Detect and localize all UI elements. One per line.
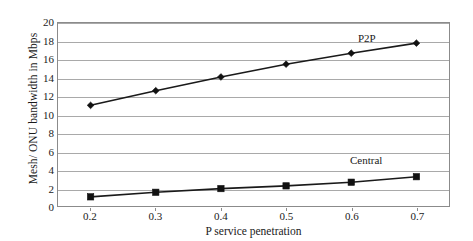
x-axis-tick-labels: 0.20.30.40.50.60.7 xyxy=(57,208,450,224)
x-tick-label: 0.5 xyxy=(266,208,306,224)
data-point xyxy=(87,194,93,200)
series-container xyxy=(58,23,449,206)
data-point xyxy=(218,185,224,191)
data-point xyxy=(87,102,94,109)
data-point xyxy=(283,61,290,68)
series-line-central xyxy=(91,177,417,197)
series-label-central: Central xyxy=(350,154,382,167)
data-point xyxy=(413,40,420,47)
series-label-p2p: P2P xyxy=(358,32,376,45)
x-tick-label: 0.6 xyxy=(332,208,372,224)
x-tick-label: 0.7 xyxy=(397,208,437,224)
y-tick-label: 16 xyxy=(28,52,54,66)
data-point xyxy=(153,189,159,195)
chart-figure: Mesh/ ONU bandwidth in Mbps 024681012141… xyxy=(0,0,473,241)
y-tick-label: 10 xyxy=(28,108,54,122)
x-tick-label: 0.4 xyxy=(201,208,241,224)
data-point xyxy=(152,87,159,94)
y-tick-label: 18 xyxy=(28,34,54,48)
x-tick-label: 0.3 xyxy=(135,208,175,224)
plot-area: P2P Central xyxy=(57,22,450,207)
data-point xyxy=(218,74,225,81)
y-tick-label: 14 xyxy=(28,71,54,85)
y-tick-label: 4 xyxy=(28,163,54,177)
y-tick-label: 8 xyxy=(28,126,54,140)
y-tick-label: 6 xyxy=(28,145,54,159)
data-point xyxy=(348,179,354,185)
y-tick-label: 2 xyxy=(28,182,54,196)
y-tick-label: 20 xyxy=(28,15,54,29)
data-point xyxy=(413,174,419,180)
y-axis-tick-labels: 02468101214161820 xyxy=(28,15,54,207)
data-point xyxy=(283,183,289,189)
x-axis-title: P service penetration xyxy=(57,223,450,239)
x-tick-label: 0.2 xyxy=(70,208,110,224)
series-line-p2p xyxy=(91,43,417,105)
y-tick-label: 0 xyxy=(28,200,54,214)
data-point xyxy=(348,50,355,57)
y-tick-label: 12 xyxy=(28,89,54,103)
